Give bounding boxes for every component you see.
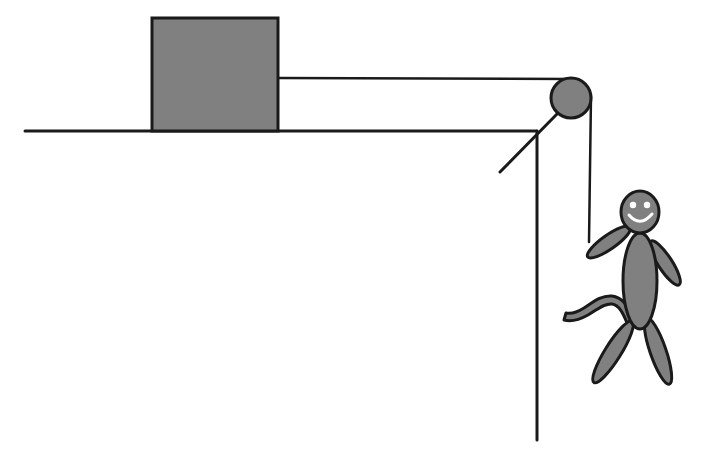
rope-vertical [589, 96, 591, 242]
head [621, 191, 659, 233]
block-rect [152, 18, 278, 131]
eye-right [644, 202, 650, 208]
pulley-system-illustration [0, 0, 702, 457]
pulley-wheel [551, 78, 591, 118]
stick-figure-person [564, 191, 685, 387]
eye-left [630, 202, 636, 208]
rope-horizontal [278, 78, 573, 79]
pulley-support-strut [500, 113, 558, 172]
leg-left [587, 317, 639, 387]
torso [623, 233, 657, 329]
physics-diagram-canvas [0, 0, 702, 457]
